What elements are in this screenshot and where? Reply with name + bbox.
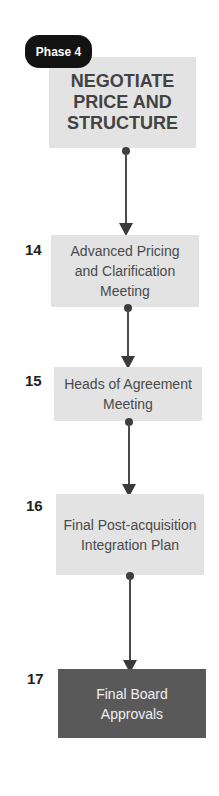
step-label: Final Post-acquisition Integration Plan xyxy=(62,515,198,555)
step-label: Final Board Approvals xyxy=(64,684,200,724)
step-label: Heads of Agreement Meeting xyxy=(60,374,196,414)
step-label: Advanced Pricing and Clarification Meeti… xyxy=(57,241,193,301)
phase-title: NEGOTIATE PRICE AND STRUCTURE xyxy=(55,71,190,134)
step-box-16: Final Post-acquisition Integration Plan xyxy=(56,494,204,575)
step-number: 16 xyxy=(26,497,43,514)
connector-line xyxy=(129,578,131,662)
step-number: 15 xyxy=(25,372,42,389)
phase-badge: Phase 4 xyxy=(25,35,92,68)
phase-title-box: NEGOTIATE PRICE AND STRUCTURE xyxy=(49,57,196,148)
phase-label: Phase 4 xyxy=(36,45,81,59)
step-box-17: Final Board Approvals xyxy=(58,669,206,738)
connector-line xyxy=(128,424,130,486)
connector-line xyxy=(125,153,127,225)
step-box-14: Advanced Pricing and Clarification Meeti… xyxy=(51,235,199,307)
connector-line xyxy=(127,310,129,358)
step-number: 14 xyxy=(25,241,42,258)
step-number: 17 xyxy=(27,670,44,687)
step-box-15: Heads of Agreement Meeting xyxy=(54,367,202,421)
